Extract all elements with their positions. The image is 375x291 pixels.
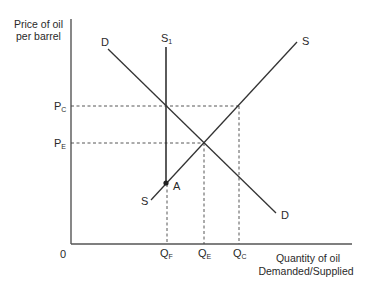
origin-label: 0 — [60, 248, 66, 260]
point-a-label: A — [173, 180, 181, 192]
supply-curve — [151, 42, 297, 200]
qe-label: QE — [198, 247, 212, 260]
qc-label: QC — [233, 247, 247, 260]
fixed-supply-label: S1 — [161, 32, 172, 45]
qf-label: QF — [160, 247, 173, 260]
y-axis-title-line1: Price of oil — [14, 18, 63, 30]
pe-label: PE — [54, 137, 66, 150]
x-axis-title-line2: Demanded/Supplied — [258, 265, 353, 277]
supply-label-bottom: S — [141, 195, 148, 207]
pc-label: PC — [54, 100, 66, 113]
demand-curve — [108, 49, 276, 213]
supply-demand-diagram: Price of oil per barrel Quantity of oil … — [0, 0, 375, 291]
supply-label-top: S — [302, 35, 309, 47]
y-axis-title-line2: per barrel — [16, 30, 61, 42]
demand-label-bottom: D — [281, 209, 289, 221]
x-axis-title-line1: Quantity of oil — [276, 252, 340, 264]
demand-label-top: D — [101, 36, 109, 48]
point-a-marker — [163, 180, 168, 185]
